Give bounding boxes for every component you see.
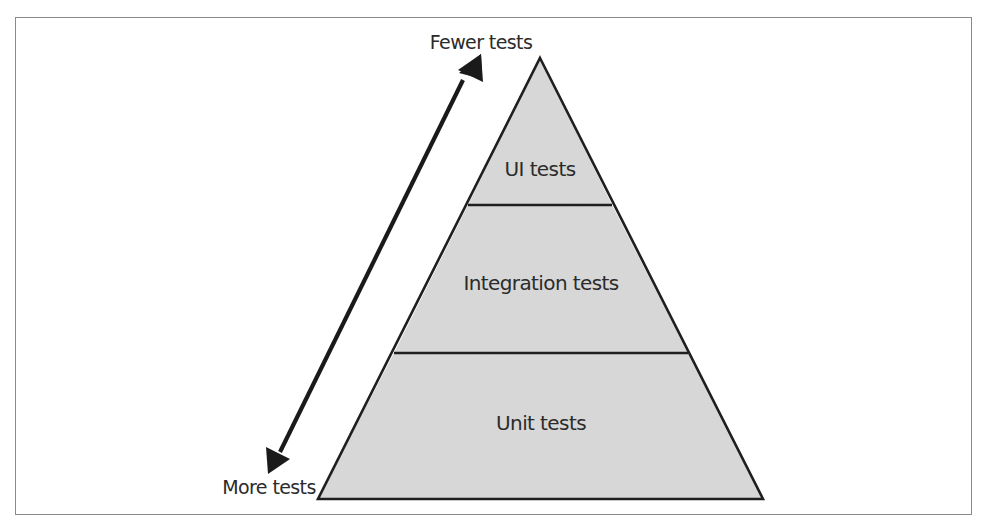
test-pyramid-diagram: UI tests Integration tests Unit tests Fe… — [0, 0, 984, 528]
tier-label-ui: UI tests — [505, 157, 576, 181]
arrowhead-down-icon — [266, 447, 290, 474]
arrow-label-more-tests: More tests — [222, 476, 316, 498]
tier-label-integration: Integration tests — [463, 271, 618, 295]
arrow-label-fewer-tests: Fewer tests — [430, 31, 532, 53]
tier-label-unit: Unit tests — [496, 411, 586, 435]
tier-ui-tests — [468, 58, 612, 205]
